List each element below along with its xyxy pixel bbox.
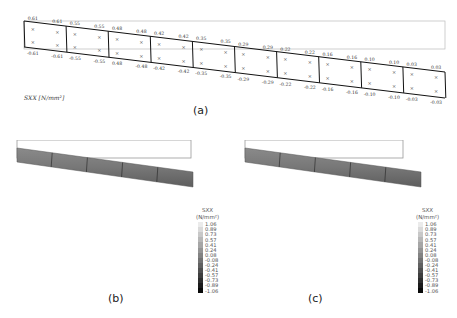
stress-label-bottom: -0.35 [220,74,232,79]
panel-c-legend: SXX(N/mm²)1.060.890.730.570.410.240.08-0… [402,214,457,290]
stress-label-top: 0.03 [431,65,441,70]
stress-label-bottom: -0.29 [237,77,249,82]
integration-point-marker: × [115,50,119,56]
stress-label-bottom: -0.16 [322,87,334,92]
integration-point-marker: × [308,73,312,79]
integration-point-marker: × [350,64,354,70]
stress-label-top: 0.16 [347,55,357,60]
integration-point-marker: × [241,65,245,71]
stress-label-top: 0.03 [407,62,417,67]
stress-label-top: 0.48 [112,26,122,31]
element-boundary [445,72,446,98]
stress-label-top: 0.35 [221,39,231,44]
legend-swatch [198,288,203,293]
stress-label-bottom: -0.22 [280,82,292,87]
integration-point-marker: × [139,39,143,45]
legend-unit: (N/mm²) [196,214,219,220]
integration-point-marker: × [350,78,354,84]
integration-point-marker: × [283,56,287,62]
element-boundary [150,36,151,62]
integration-point-marker: × [308,59,312,65]
legend-title: SXX [202,207,213,213]
stress-label-top: 0.29 [238,42,248,47]
integration-point-marker: × [199,60,203,66]
integration-point-marker: × [224,63,228,69]
integration-point-marker: × [199,46,203,52]
stress-label-bottom: -0.22 [304,85,316,90]
stress-label-top: 0.10 [365,57,375,62]
element-boundary [277,52,278,78]
stress-label-bottom: -0.16 [346,90,358,95]
panel-b-legend: SXX(N/mm²)1.060.890.730.570.410.240.08-0… [182,214,228,290]
element-boundary [319,57,320,83]
integration-point-marker: × [368,66,372,72]
panel-b-caption: (b) [108,292,124,305]
stress-label-bottom: -0.03 [430,100,442,105]
element-boundary [361,62,362,88]
integration-point-marker: × [434,74,438,80]
legend-title: SXX [422,207,433,213]
integration-point-marker: × [392,83,396,89]
legend-unit: (N/mm²) [416,214,439,220]
element-boundary [192,41,193,67]
integration-point-marker: × [73,44,77,50]
panel-a-quantity-label: SXX [N/mm²] [24,94,64,101]
panel-a-mesh: ××0.61-0.61××0.61-0.61××0.55-0.55××0.55-… [0,0,457,105]
stress-label-bottom: -0.61 [51,54,63,59]
stress-label-top: 0.29 [263,45,273,50]
integration-point-marker: × [31,39,35,45]
stress-label-top: 0.35 [196,36,206,41]
legend-value: -1.06 [425,288,438,294]
stress-label-bottom: -0.48 [136,64,148,69]
stress-label-top: 0.42 [178,34,188,39]
stress-label-bottom: -0.42 [153,66,165,71]
stress-label-bottom: -0.61 [27,51,39,56]
element-boundary [235,47,236,73]
panel-c-caption: (c) [308,292,323,305]
stress-label-bottom: -0.29 [262,80,274,85]
stress-label-top: 0.61 [52,19,62,24]
integration-point-marker: × [283,70,287,76]
deformed-beam [245,148,421,187]
stress-label-top: 0.55 [94,24,104,29]
integration-point-marker: × [31,26,35,32]
stress-label-bottom: -0.42 [178,69,190,74]
element-boundary [66,26,67,52]
integration-point-marker: × [55,29,59,35]
integration-point-marker: × [410,85,414,91]
integration-point-marker: × [410,71,414,77]
integration-point-marker: × [368,80,372,86]
integration-point-marker: × [434,88,438,94]
legend-swatch [418,288,423,293]
integration-point-marker: × [181,44,185,50]
stress-label-top: 0.55 [70,21,80,26]
stress-label-top: 0.16 [322,52,332,57]
stress-label-top: 0.61 [28,16,38,21]
integration-point-marker: × [157,55,161,61]
integration-point-marker: × [266,68,270,74]
element-boundary [403,67,404,93]
integration-point-marker: × [266,54,270,60]
integration-point-marker: × [55,42,59,48]
integration-point-marker: × [97,34,101,40]
undeformed-outline [24,21,445,49]
integration-point-marker: × [115,36,119,42]
integration-point-marker: × [181,58,185,64]
integration-point-marker: × [157,41,161,47]
integration-point-marker: × [224,49,228,55]
stress-label-bottom: -0.35 [195,71,207,76]
stress-label-top: 0.48 [136,29,146,34]
integration-point-marker: × [392,69,396,75]
element-boundary [108,31,109,57]
deformed-beam [17,148,193,187]
stress-label-top: 0.42 [154,31,164,36]
integration-point-marker: × [73,31,77,37]
integration-point-marker: × [97,47,101,53]
integration-point-marker: × [139,53,143,59]
stress-label-bottom: -0.10 [388,95,400,100]
legend-value: -1.06 [205,288,218,294]
stress-label-bottom: -0.55 [93,59,105,64]
stress-label-top: 0.10 [389,60,399,65]
integration-point-marker: × [241,51,245,57]
stress-label-bottom: -0.03 [406,97,418,102]
